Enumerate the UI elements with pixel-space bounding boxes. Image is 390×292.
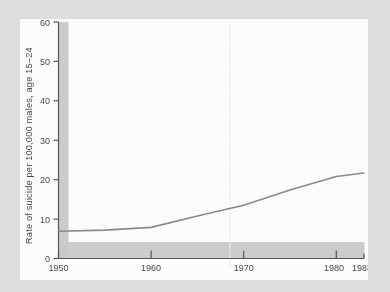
scanned-page-card: 60 50 40 30 20 10 0 Rate of suicide per …: [20, 19, 368, 280]
x-tick-label-1960: 1960: [141, 263, 161, 273]
scan-artifact-horizontal-band: [59, 242, 365, 258]
x-tick-label-1970: 1970: [234, 263, 254, 273]
x-tick-label-1983: 1983: [352, 263, 368, 273]
x-tick-label-1950: 1950: [48, 263, 68, 273]
y-tick-label-30: 30: [40, 136, 50, 146]
y-tick-label-60: 60: [40, 19, 50, 28]
y-axis-label: Rate of suicide per 100,000 males, age 1…: [24, 47, 34, 244]
screenshot-root: 60 50 40 30 20 10 0 Rate of suicide per …: [0, 0, 390, 292]
y-tick-label-50: 50: [40, 57, 50, 67]
y-tick-label-10: 10: [40, 215, 50, 225]
chart-background: [20, 19, 368, 280]
line-chart-svg: 60 50 40 30 20 10 0 Rate of suicide per …: [20, 19, 368, 280]
chart-figure: 60 50 40 30 20 10 0 Rate of suicide per …: [20, 19, 368, 280]
scan-artifact-vertical-band: [59, 22, 69, 257]
y-tick-label-40: 40: [40, 96, 50, 106]
y-tick-label-20: 20: [40, 175, 50, 185]
x-tick-label-1980: 1980: [324, 263, 344, 273]
